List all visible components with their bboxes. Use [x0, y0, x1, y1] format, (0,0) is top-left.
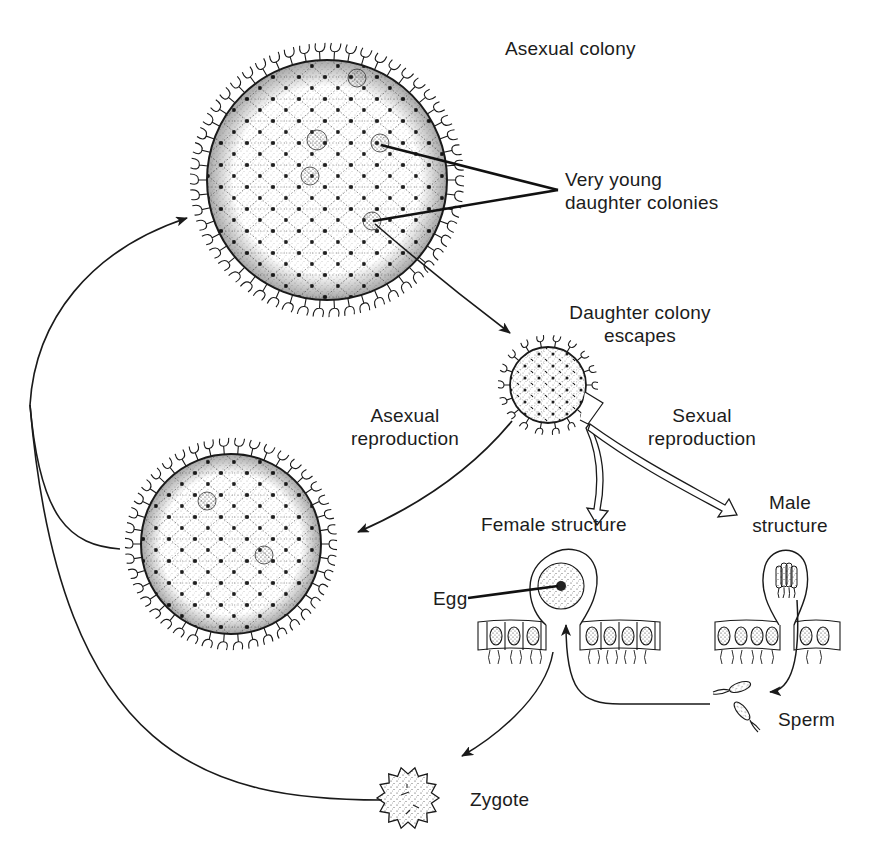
zygote: [377, 768, 439, 828]
label-egg: Egg: [433, 587, 467, 610]
label-line: escapes: [555, 324, 725, 347]
daughter-colony: [498, 335, 603, 435]
asexual-colony: [190, 43, 464, 317]
volvox-life-cycle-diagram: Asexual colony Very young daughter colon…: [0, 0, 876, 845]
sperm-cells: [713, 679, 760, 732]
male-structure: [715, 550, 840, 664]
label-line: Sexual: [632, 404, 772, 427]
label-sexual-reproduction: Sexual reproduction: [632, 404, 772, 450]
label-very-young-daughter-colonies: Very young daughter colonies: [565, 168, 718, 214]
label-zygote: Zygote: [470, 788, 529, 811]
label-line: daughter colonies: [565, 191, 718, 214]
label-line: reproduction: [335, 427, 475, 450]
label-line: Asexual: [335, 404, 475, 427]
mature-colony: [125, 438, 337, 650]
label-asexual-reproduction: Asexual reproduction: [335, 404, 475, 450]
label-female-structure: Female structure: [481, 513, 627, 536]
label-line: Very young: [565, 168, 718, 191]
label-sperm: Sperm: [778, 708, 835, 731]
label-line: reproduction: [632, 427, 772, 450]
female-cell-layer: [478, 620, 660, 664]
label-asexual-colony: Asexual colony: [505, 37, 636, 60]
male-cell-layer: [715, 620, 840, 664]
female-structure: [478, 549, 660, 664]
label-line: structure: [740, 514, 840, 537]
label-daughter-colony-escapes: Daughter colony escapes: [555, 301, 725, 347]
label-line: Daughter colony: [555, 301, 725, 324]
label-male-structure: Male structure: [740, 491, 840, 537]
antheridium: [763, 550, 808, 625]
label-line: Male: [740, 491, 840, 514]
arrow-egg-to-zygote: [462, 652, 553, 756]
